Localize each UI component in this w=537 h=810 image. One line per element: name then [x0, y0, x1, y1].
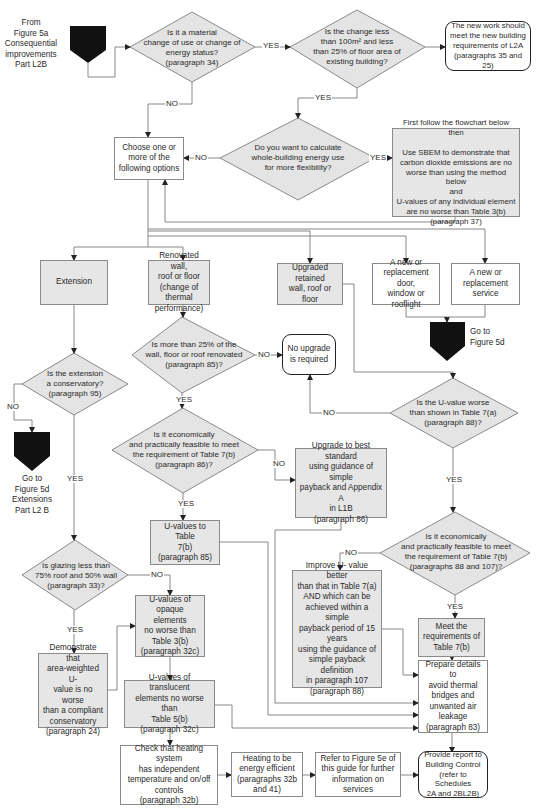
label-yes-d3: YES	[369, 154, 387, 162]
label-no-d1: NO	[165, 100, 179, 108]
decision-change-less-text: Is the change less than 100m² and less t…	[300, 22, 414, 72]
process-refer-5e: Refer to Figure 5e of this guide for fur…	[315, 752, 401, 797]
entry-from-figure-5a: From Figure 5a Consequential improvement…	[2, 18, 60, 71]
label-no-conservatory: NO	[6, 403, 20, 411]
connector-goto-5d	[430, 322, 465, 361]
process-translucent: U-values of translucent elements no wors…	[124, 680, 215, 728]
label-no-renov: NO	[257, 351, 271, 359]
process-opaque: U-values of opaque elements no worse tha…	[135, 595, 205, 657]
decision-renovated-25-text: Is more than 25% of the wall, floor or r…	[140, 335, 248, 375]
option-upgraded-retained: Upgraded retained wall, roof or floor	[277, 263, 343, 305]
process-heating-efficient: Heating to be energy efficient (paragrap…	[231, 752, 303, 797]
decision-econ-88-107-text: Is it economically and practically feasi…	[386, 526, 526, 578]
process-uvalues-7b: U-values to Table 7(b) (paragraph 85)	[150, 520, 220, 565]
terminal-provide-report: Provide report to Building Control (refe…	[418, 751, 488, 798]
decision-whole-building-text: Do you want to calculate whole-building …	[232, 138, 364, 178]
label-no-uvalue: NO	[322, 409, 336, 417]
connector-goto-5d-ext	[14, 432, 50, 471]
label-yes-glazing: YES	[66, 626, 84, 634]
process-sbem: First follow the flowchart below then Us…	[392, 128, 520, 217]
goto-figure-5d-ext-label: Go to Figure 5d Extensions Part L2 B	[4, 474, 60, 516]
label-yes-econ86: YES	[177, 500, 195, 508]
terminal-new-work: The new work should meet the new buildin…	[445, 21, 531, 71]
option-extension: Extension	[40, 260, 108, 305]
decision-material-change-text: Is it a material change of use or change…	[140, 20, 244, 76]
process-check-heating: Check that heating system has independen…	[120, 745, 218, 805]
process-upgrade-best: Upgrade to best standard using guidance …	[295, 448, 387, 518]
process-demonstrate: Demonstrate that area-weighted U- value …	[38, 653, 108, 728]
option-new-door: A new or replacement door, window or roo…	[372, 263, 440, 305]
connector-from-5a	[70, 26, 106, 63]
terminal-no-upgrade: No upgrade is required	[282, 334, 336, 375]
label-yes-conservatory: YES	[66, 475, 84, 483]
label-yes-d2: YES	[314, 94, 332, 102]
decision-conservatory-text: Is the extension a conservatory? (paragr…	[30, 364, 120, 404]
process-choose-options: Choose one or more of the following opti…	[114, 137, 184, 180]
label-yes-renov: YES	[175, 396, 193, 404]
label-no-econ86: NO	[272, 460, 286, 468]
label-no-d3: NO	[194, 154, 208, 162]
process-prepare: Prepare details to avoid thermal bridges…	[418, 660, 488, 733]
decision-econ-86-text: Is it economically and practically feasi…	[116, 424, 252, 476]
label-no-glazing: NO	[150, 571, 164, 579]
label-yes-d1: YES	[262, 42, 280, 50]
label-yes-econ88: YES	[446, 603, 464, 611]
option-new-service: A new or replacement service	[451, 263, 520, 305]
option-renovated: Renovated wall, roof or floor (change of…	[148, 260, 210, 305]
label-yes-uvalue: YES	[445, 476, 463, 484]
process-meet-req: Meet the requirements of Table 7(b)	[418, 618, 485, 657]
process-improve-u: Improve U- value better than that in Tab…	[292, 570, 382, 688]
decision-uvalue-worse-text: Is the U-value worse than shown in Table…	[398, 395, 508, 431]
decision-glazing-text: Is glazing less than 75% roof and 50% wa…	[28, 558, 124, 594]
label-no-econ88: NO	[344, 549, 358, 557]
goto-figure-5d-label: Go to Figure 5d	[470, 327, 514, 348]
